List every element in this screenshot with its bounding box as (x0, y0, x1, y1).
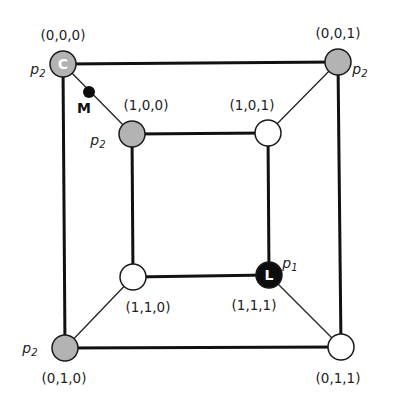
edge-n000-n001 (63, 62, 338, 64)
player-label: p1 (281, 255, 297, 273)
player-label: p2 (29, 61, 45, 79)
node-n011 (328, 334, 354, 360)
node-n001 (325, 49, 351, 75)
marker-m-label: M (77, 100, 91, 116)
edge-n011-n111 (269, 275, 341, 347)
node-coordinate-label: (0,0,0) (41, 27, 86, 43)
node-coordinate-label: (0,1,1) (316, 370, 361, 386)
edge-n110-n111 (133, 275, 269, 277)
node-marker-L: L (265, 267, 274, 283)
node-coordinate-label: (1,0,0) (124, 97, 169, 113)
edge-n010-n110 (65, 277, 133, 348)
node-n100 (119, 121, 145, 147)
edge-n000-n010 (63, 64, 65, 348)
edge-n000-n100 (63, 64, 132, 134)
edge-n100-n110 (132, 134, 133, 277)
node-n101 (255, 120, 281, 146)
edge-n100-n101 (132, 133, 268, 134)
hypercube-diagram: CL (0,0,0)p2(0,0,1)p2(1,0,0)p2(1,0,1)(1,… (0, 0, 397, 404)
edge-n010-n011 (65, 347, 341, 348)
node-coordinate-label: (0,1,0) (42, 370, 87, 386)
player-label: p2 (21, 340, 37, 358)
marker-m-dot (83, 86, 95, 98)
node-n110 (120, 264, 146, 290)
edge-n001-n011 (338, 62, 341, 347)
player-label: p2 (89, 132, 105, 150)
labels-layer: (0,0,0)p2(0,0,1)p2(1,0,0)p2(1,0,1)(1,1,0… (21, 25, 367, 386)
node-coordinate-label: (0,0,1) (316, 25, 361, 41)
node-coordinate-label: (1,0,1) (230, 97, 275, 113)
node-n010 (52, 335, 78, 361)
edge-n001-n101 (268, 62, 338, 133)
edge-n101-n111 (268, 133, 269, 275)
node-coordinate-label: (1,1,1) (232, 297, 277, 313)
player-label: p2 (351, 61, 367, 79)
node-coordinate-label: (1,1,0) (126, 299, 171, 315)
node-marker-C: C (58, 56, 68, 72)
edges-layer (63, 62, 341, 348)
